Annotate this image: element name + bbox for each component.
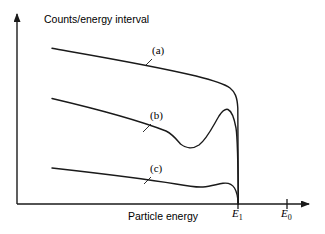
x-axis-title: Particle energy bbox=[128, 211, 198, 222]
leader-line-b bbox=[143, 124, 151, 132]
x-tick-label-e0-base: E bbox=[281, 207, 288, 219]
curve-label-b: (b) bbox=[150, 110, 163, 121]
curve-label-c: (c) bbox=[150, 163, 162, 174]
curve-label-a: (a) bbox=[152, 45, 164, 56]
figure-root: Counts/energy interval Particle energy (… bbox=[0, 0, 325, 234]
leader-line-a bbox=[146, 59, 152, 65]
x-tick-label-e1-subscript: 1 bbox=[239, 213, 243, 222]
x-tick-label-e1-base: E bbox=[232, 207, 239, 219]
curve-c bbox=[52, 168, 238, 204]
curve-a bbox=[52, 48, 238, 204]
x-tick-label-e1: E1 bbox=[232, 208, 243, 222]
x-tick-label-e0: E0 bbox=[281, 208, 292, 222]
curve-b bbox=[52, 99, 238, 205]
y-axis-title: Counts/energy interval bbox=[44, 14, 149, 25]
x-tick-label-e0-subscript: 0 bbox=[288, 213, 292, 222]
